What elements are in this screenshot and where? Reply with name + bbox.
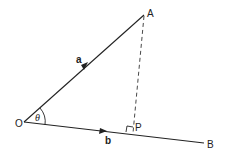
- vector-b-line: [24, 122, 204, 143]
- perpendicular-dashed-line: [133, 16, 144, 133]
- label-P: P: [135, 122, 142, 133]
- label-vector-b: b: [105, 135, 111, 146]
- label-theta: θ: [35, 112, 40, 123]
- label-B: B: [207, 139, 214, 150]
- vector-projection-diagram: O A P B a b θ: [0, 0, 230, 157]
- label-O: O: [15, 118, 23, 129]
- angle-arc: [40, 108, 45, 125]
- label-A: A: [147, 8, 154, 19]
- right-angle-marker: [126, 126, 133, 132]
- label-vector-a: a: [76, 54, 82, 65]
- arrow-b-icon: [99, 128, 107, 134]
